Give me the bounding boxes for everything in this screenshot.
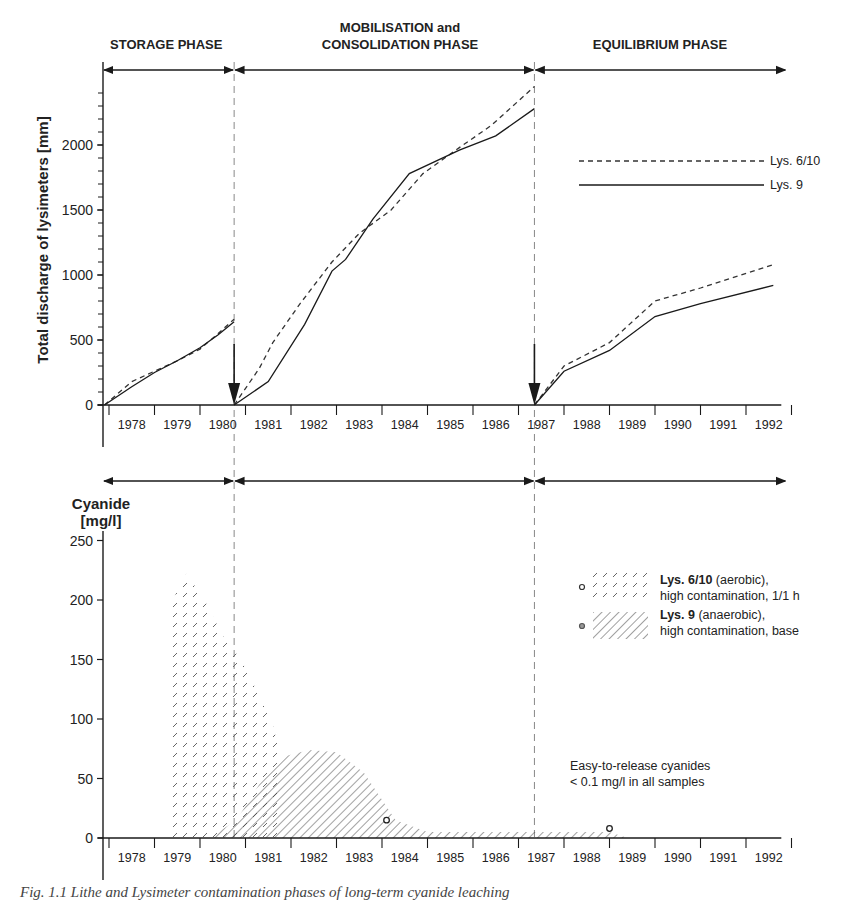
x-tick-label-1990: 1990 bbox=[664, 418, 692, 432]
x-tick-label-1985: 1985 bbox=[436, 851, 464, 865]
y-tick-label: 50 bbox=[77, 771, 93, 787]
discharge-axes: 0500100015002000197819791980198119821983… bbox=[62, 62, 792, 447]
x-tick-label-1992: 1992 bbox=[755, 418, 783, 432]
legend-swatch-diagonal-hatch bbox=[593, 612, 648, 639]
line-lys-9-segment-0 bbox=[104, 322, 234, 405]
x-tick-label-1984: 1984 bbox=[391, 851, 419, 865]
x-tick-label-1982: 1982 bbox=[300, 418, 328, 432]
line-lys-6-10-segment-2 bbox=[534, 265, 773, 405]
x-tick-label-1981: 1981 bbox=[254, 418, 282, 432]
phase-label-storage: STORAGE PHASE bbox=[110, 37, 223, 52]
figure-caption: Fig. 1.1 Lithe and Lysimeter contaminati… bbox=[20, 884, 510, 901]
data-marker-1 bbox=[607, 826, 613, 832]
line-lys-9-segment-2 bbox=[534, 285, 773, 405]
y-axis-title-cyanide-line1: Cyanide bbox=[72, 495, 130, 512]
x-tick-label-1990: 1990 bbox=[664, 851, 692, 865]
x-tick-label-1979: 1979 bbox=[163, 851, 191, 865]
y-axis-title-discharge: Total discharge of lysimeters [mm] bbox=[34, 116, 51, 363]
discharge-chart: Total discharge of lysimeters [mm] 05001… bbox=[34, 62, 820, 447]
x-tick-label-1981: 1981 bbox=[254, 851, 282, 865]
x-tick-label-1983: 1983 bbox=[345, 851, 373, 865]
y-tick-label: 0 bbox=[85, 397, 93, 413]
legend-label-lys-9-anaerobic: Lys. 9 (anaerobic), bbox=[660, 608, 765, 622]
x-tick-label-1978: 1978 bbox=[118, 851, 146, 865]
x-tick-label-1987: 1987 bbox=[527, 851, 555, 865]
cyanide-areas bbox=[168, 574, 628, 838]
x-tick-label-1987: 1987 bbox=[527, 418, 555, 432]
x-tick-label-1991: 1991 bbox=[709, 851, 737, 865]
y-tick-label: 0 bbox=[85, 830, 93, 846]
reset-arrow-head-1 bbox=[528, 383, 540, 405]
x-tick-label-1980: 1980 bbox=[209, 851, 237, 865]
x-tick-label-1982: 1982 bbox=[300, 851, 328, 865]
legend-label-lys-9-line2: high contamination, base bbox=[660, 624, 799, 638]
data-marker-0 bbox=[384, 817, 390, 823]
discharge-lines bbox=[104, 87, 773, 406]
y-tick-label: 1500 bbox=[62, 202, 93, 218]
phase-header: STORAGE PHASE MOBILISATION and CONSOLIDA… bbox=[110, 20, 727, 52]
y-tick-label: 2000 bbox=[62, 137, 93, 153]
x-tick-label-1978: 1978 bbox=[118, 418, 146, 432]
x-tick-label-1984: 1984 bbox=[391, 418, 419, 432]
y-tick-label: 250 bbox=[70, 533, 94, 549]
x-tick-label-1980: 1980 bbox=[209, 418, 237, 432]
x-tick-label-1986: 1986 bbox=[482, 851, 510, 865]
x-tick-label-1986: 1986 bbox=[482, 418, 510, 432]
phase-label-mobilisation-line2: CONSOLIDATION PHASE bbox=[322, 37, 479, 52]
annotation-easy-release-line1: Easy-to-release cyanides bbox=[570, 759, 710, 773]
y-tick-label: 100 bbox=[70, 711, 94, 727]
y-tick-label: 150 bbox=[70, 652, 94, 668]
legend-label-lys-6-10-line2: high contamination, 1/1 h bbox=[660, 589, 800, 603]
legend-label-lys-6-10: Lys. 6/10 bbox=[770, 154, 820, 168]
y-tick-label: 500 bbox=[70, 332, 94, 348]
legend-marker-lys-9 bbox=[580, 624, 585, 629]
y-tick-label: 1000 bbox=[62, 267, 93, 283]
legend-marker-lys-6-10 bbox=[580, 585, 585, 590]
legend-swatch-short-dash-hatch bbox=[593, 573, 648, 600]
discharge-legend: Lys. 6/10 Lys. 9 bbox=[579, 154, 820, 192]
x-tick-label-1988: 1988 bbox=[573, 418, 601, 432]
x-tick-label-1979: 1979 bbox=[163, 418, 191, 432]
legend-label-lys-6-10-aerobic: Lys. 6/10 (aerobic), bbox=[660, 573, 769, 587]
x-tick-label-1989: 1989 bbox=[618, 418, 646, 432]
figure: STORAGE PHASE MOBILISATION and CONSOLIDA… bbox=[0, 0, 841, 901]
cyanide-chart: Cyanide [mg/l] 0501001502002501978197919… bbox=[70, 495, 800, 880]
phase-label-equilibrium: EQUILIBRIUM PHASE bbox=[593, 37, 728, 52]
annotation-easy-release-line2: < 0.1 mg/l in all samples bbox=[570, 775, 704, 789]
cyanide-legend: Lys. 6/10 (aerobic), high contamination,… bbox=[580, 573, 800, 639]
phase-label-mobilisation-line1: MOBILISATION and bbox=[340, 20, 460, 35]
x-tick-label-1985: 1985 bbox=[436, 418, 464, 432]
x-tick-label-1983: 1983 bbox=[345, 418, 373, 432]
x-tick-label-1992: 1992 bbox=[755, 851, 783, 865]
line-lys-6-10-segment-1 bbox=[234, 87, 534, 406]
x-tick-label-1988: 1988 bbox=[573, 851, 601, 865]
line-lys-9-segment-1 bbox=[234, 109, 534, 405]
phase-divider-lines bbox=[234, 62, 534, 838]
y-axis-title-cyanide-line2: [mg/l] bbox=[81, 512, 122, 529]
legend-label-lys-9: Lys. 9 bbox=[770, 178, 803, 192]
x-tick-label-1989: 1989 bbox=[618, 851, 646, 865]
y-tick-label: 200 bbox=[70, 592, 94, 608]
x-tick-label-1991: 1991 bbox=[709, 418, 737, 432]
